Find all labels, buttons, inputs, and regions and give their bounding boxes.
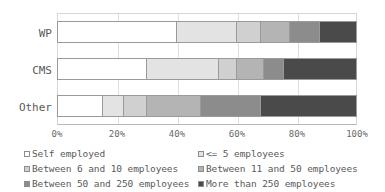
bar-row: [57, 58, 357, 80]
legend-swatch-icon: [198, 166, 204, 172]
legend-label: Self employed: [32, 149, 105, 159]
bar-segment: [237, 59, 264, 79]
stacked-bar-chart: WP CMS Other 0%20%40%60%80%100% Self emp…: [0, 0, 385, 192]
legend-swatch-icon: [198, 181, 204, 187]
bar-segment: [58, 96, 103, 116]
bar-segment: [320, 22, 356, 42]
bar-segment: [290, 22, 320, 42]
bar-segment: [219, 59, 237, 79]
bar-row: [57, 95, 357, 117]
bar-segment: [58, 59, 147, 79]
legend: Self employed<= 5 employeesBetween 6 and…: [24, 146, 376, 191]
legend-swatch-icon: [24, 151, 30, 157]
category-label-wp: WP: [0, 28, 52, 39]
legend-swatch-icon: [198, 151, 204, 157]
legend-item[interactable]: More than 250 employees: [198, 179, 372, 189]
legend-item[interactable]: Between 6 and 10 employees: [24, 164, 198, 174]
bar-segment: [261, 22, 291, 42]
legend-item[interactable]: Between 50 and 250 employees: [24, 179, 198, 189]
bar-segment: [264, 59, 285, 79]
bar-segment: [237, 22, 261, 42]
bar-segment: [103, 96, 124, 116]
x-axis-tick-label: 40%: [169, 130, 185, 139]
x-axis-tick-label: 0%: [52, 130, 63, 139]
x-axis-tick-label: 100%: [346, 130, 368, 139]
legend-swatch-icon: [24, 166, 30, 172]
bars-layer: [57, 13, 357, 125]
category-label-cms: CMS: [0, 65, 52, 76]
legend-label: Between 50 and 250 employees: [32, 179, 189, 189]
legend-label: <= 5 employees: [206, 149, 285, 159]
bar-segment: [177, 22, 237, 42]
bar-segment: [201, 96, 261, 116]
bar-segment: [147, 59, 219, 79]
legend-label: More than 250 employees: [206, 179, 335, 189]
legend-item[interactable]: Self employed: [24, 149, 198, 159]
x-axis-tick-label: 60%: [229, 130, 245, 139]
bar-segment: [261, 96, 356, 116]
x-axis-tick-label: 20%: [109, 130, 125, 139]
legend-label: Between 6 and 10 employees: [32, 164, 178, 174]
x-axis-tick-label: 80%: [289, 130, 305, 139]
legend-swatch-icon: [24, 181, 30, 187]
legend-item[interactable]: Between 11 and 50 employees: [198, 164, 372, 174]
bar-segment: [124, 96, 148, 116]
category-label-other: Other: [0, 102, 52, 113]
bar-segment: [58, 22, 177, 42]
bar-row: [57, 21, 357, 43]
bar-segment: [147, 96, 201, 116]
legend-item[interactable]: <= 5 employees: [198, 149, 372, 159]
legend-label: Between 11 and 50 employees: [206, 164, 358, 174]
bar-segment: [284, 59, 356, 79]
